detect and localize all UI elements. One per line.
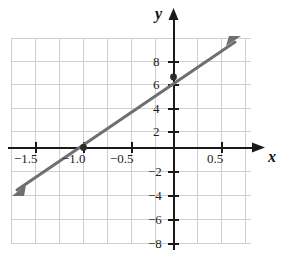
y-axis-label: y (155, 6, 162, 22)
x-tick-label-neg-1-5: −1.5 (14, 152, 38, 165)
x-tick-label-pos-0-5: 0.5 (207, 152, 223, 165)
y-tick-label-neg-6: −6 (148, 213, 162, 226)
grid-lines (11, 38, 251, 244)
x-axis-label: x (268, 149, 276, 165)
y-tick-label-neg-4: −4 (148, 189, 162, 202)
coordinate-plane-svg (0, 0, 283, 262)
y-tick-label-6: 6 (153, 78, 160, 91)
y-axis (169, 8, 179, 250)
data-point-x-intercept (80, 144, 87, 151)
graph-figure: −1.5 −1.0 −0.5 0.5 8 6 4 2 −2 −4 −6 −8 y… (0, 0, 283, 262)
y-tick-label-neg-8: −8 (148, 237, 162, 250)
data-point-y-intercept (170, 74, 177, 81)
y-tick-label-4: 4 (153, 102, 160, 115)
y-tick-label-8: 8 (153, 55, 160, 68)
x-axis (8, 143, 265, 153)
y-tick-label-2: 2 (153, 125, 160, 138)
data-points (80, 74, 177, 151)
y-tick-label-neg-2: −2 (148, 165, 162, 178)
x-tick-label-neg-1-0: −1.0 (62, 152, 86, 165)
x-tick-label-neg-0-5: −0.5 (110, 152, 134, 165)
